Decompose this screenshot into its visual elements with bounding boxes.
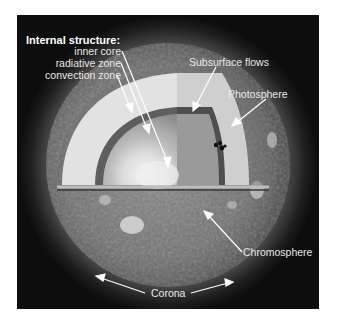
photosphere-label: Photosphere bbox=[228, 89, 288, 100]
convection-zone-label: convection zone bbox=[17, 70, 121, 81]
inner-core bbox=[135, 161, 179, 189]
radiative-zone-label: radiative zone bbox=[17, 58, 121, 69]
inner-core-label: inner core bbox=[17, 46, 121, 57]
chromosphere-label: Chromosphere bbox=[243, 247, 312, 258]
corona-label: Corona bbox=[151, 288, 185, 299]
sun-diagram-panel: Internal structure: inner core radiative… bbox=[17, 15, 319, 309]
subsurface-flows-label: Subsurface flows bbox=[189, 57, 269, 68]
